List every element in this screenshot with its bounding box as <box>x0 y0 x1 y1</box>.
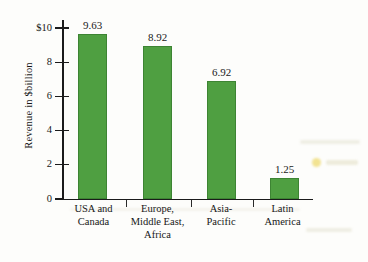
bar <box>143 46 172 199</box>
y-axis-line <box>62 20 64 200</box>
y-axis-tick-label: 8 <box>8 57 52 68</box>
y-axis-tick <box>55 164 62 165</box>
y-axis-title: Revenue in $billion <box>23 31 34 181</box>
y-axis-tick <box>55 96 62 97</box>
x-axis-category-label: USA andCanada <box>62 203 125 229</box>
y-axis-tick-label: 0 <box>8 194 52 205</box>
bar-value-label: 9.63 <box>65 20 120 31</box>
scan-artifact <box>326 160 358 165</box>
bar-value-label: 8.92 <box>130 32 185 43</box>
category-label-line: Europe, <box>125 203 190 216</box>
bar-value-label: 1.25 <box>257 164 312 175</box>
y-axis-tick-inner <box>63 62 69 63</box>
category-label-line: Pacific <box>190 216 252 229</box>
scan-artifact <box>300 140 360 144</box>
category-label-line: America <box>252 216 313 229</box>
y-axis-tick <box>55 27 62 28</box>
category-label-line: Latin <box>252 203 313 216</box>
bar <box>270 178 299 199</box>
scan-artifact <box>306 228 352 232</box>
category-label-line: USA and <box>62 203 125 216</box>
bar-value-label: 6.92 <box>194 67 249 78</box>
y-axis-tick <box>55 62 62 63</box>
y-axis-tick-inner <box>63 164 69 165</box>
y-axis-tick-inner <box>63 130 69 131</box>
x-axis-category-label: Europe,Middle East,Africa <box>125 203 190 241</box>
category-label-line: Africa <box>125 229 190 242</box>
y-axis-tick <box>55 198 62 199</box>
category-label-line: Asia- <box>190 203 252 216</box>
category-label-line: Middle East, <box>125 216 190 229</box>
bar <box>207 81 236 199</box>
x-axis-category-label: LatinAmerica <box>252 203 313 229</box>
y-axis-tick-label: 6 <box>8 91 52 102</box>
scan-artifact <box>312 158 321 167</box>
y-axis-tick-label: 2 <box>8 159 52 170</box>
category-label-line: Canada <box>62 216 125 229</box>
y-axis-tick-inner <box>63 96 69 97</box>
bar <box>78 34 107 199</box>
y-axis-tick-label: $10 <box>8 23 52 34</box>
y-axis-tick <box>55 130 62 131</box>
x-axis-category-label: Asia-Pacific <box>190 203 252 229</box>
y-axis-tick-label: 4 <box>8 125 52 136</box>
bar-chart: Revenue in $billion 02468$10 9.638.926.9… <box>0 0 368 262</box>
